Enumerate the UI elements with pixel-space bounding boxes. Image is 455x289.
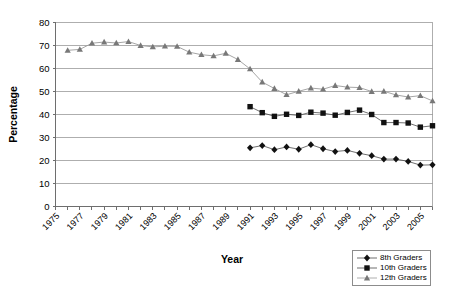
legend-label: 12th Graders [378,273,427,283]
data-point-marker [369,112,374,117]
data-point-marker [272,114,277,119]
legend-marker-triangle-icon [356,273,378,283]
x-tick-label: 1979 [89,211,110,232]
y-tick-label: 20 [39,155,50,166]
data-point-marker [259,142,265,149]
data-point-marker [429,98,435,104]
x-tick-label: 1989 [210,211,231,232]
data-point-marker [357,107,362,112]
data-point-marker [260,110,265,115]
data-point-marker [296,146,302,153]
data-point-marker [296,113,301,118]
data-point-marker [332,148,338,155]
data-point-marker [186,49,192,55]
y-tick-label: 30 [39,132,50,143]
x-tick-label: 1993 [259,211,280,232]
legend-marker-diamond-icon [356,253,378,263]
data-point-marker [308,141,314,148]
data-point-marker [125,38,131,44]
data-point-marker [356,150,362,157]
y-tick-label: 10 [39,178,50,189]
legend-label: 8th Graders [378,253,422,263]
x-tick-label: 1977 [65,211,86,232]
data-point-marker [101,39,107,45]
data-point-marker [333,112,338,117]
x-tick-label: 1991 [235,211,256,232]
x-axis-title: Year [221,253,243,265]
data-point-marker [345,110,350,115]
data-point-marker [235,56,241,62]
data-point-marker [308,85,314,91]
data-point-marker [344,147,350,154]
data-point-marker [369,152,375,159]
legend-item[interactable]: 10th Graders [356,263,426,273]
x-tick-label: 1975 [40,211,61,232]
x-tick-label: 1997 [308,211,329,232]
y-tick-label: 80 [39,17,50,28]
legend-marker-square-icon [356,263,378,273]
y-axis-title: Percentage [7,86,19,143]
x-tick-label: 1981 [113,211,134,232]
legend-label: 10th Graders [378,263,427,273]
x-tick-label: 2005 [405,211,426,232]
data-point-marker [418,124,423,129]
data-point-marker [381,156,387,163]
data-point-marker [247,144,253,151]
x-tick-label: 2001 [356,211,377,232]
data-point-marker [393,120,398,125]
data-point-marker [393,156,399,163]
x-tick-label: 1995 [283,211,304,232]
data-point-marker [320,145,326,152]
chart-plot-area: 0102030405060708019751977197919811983198… [0,0,455,289]
data-point-marker [223,50,229,56]
x-tick-label: 2003 [381,211,402,232]
legend-item[interactable]: 8th Graders [356,253,426,263]
data-point-marker [381,120,386,125]
data-point-marker [417,92,423,98]
y-tick-label: 40 [39,109,50,120]
data-point-marker [308,110,313,115]
y-tick-label: 0 [44,201,49,212]
legend-item[interactable]: 12th Graders [356,273,426,283]
line-chart: 0102030405060708019751977197919811983198… [0,0,455,289]
series-line-8th-graders [250,145,432,165]
data-point-marker [332,82,338,88]
data-point-marker [405,120,410,125]
x-tick-label: 1987 [186,211,207,232]
x-tick-label: 1999 [332,211,353,232]
data-point-marker [429,161,435,168]
y-tick-label: 60 [39,63,50,74]
y-tick-label: 70 [39,40,50,51]
data-point-marker [284,112,289,117]
x-tick-label: 1983 [137,211,158,232]
data-point-marker [77,46,83,52]
data-point-marker [247,104,252,109]
x-tick-label: 1985 [162,211,183,232]
y-tick-label: 50 [39,86,50,97]
data-point-marker [271,146,277,153]
data-point-marker [405,158,411,165]
data-point-marker [320,110,325,115]
chart-legend: 8th Graders10th Graders12th Graders [352,250,431,286]
data-point-marker [430,123,435,128]
data-point-marker [271,85,277,91]
series-line-10th-graders [250,107,432,127]
data-point-marker [417,162,423,169]
data-point-marker [283,144,289,151]
